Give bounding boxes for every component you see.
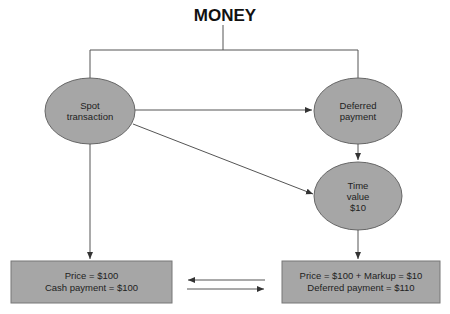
right-box-label: Price = $100 + Markup = $10 Deferred pay… (282, 270, 440, 294)
label-line: Time (314, 180, 402, 191)
label-line: transaction (45, 111, 135, 122)
label-line: Price = $100 (11, 270, 172, 282)
label-line: payment (314, 111, 402, 122)
label-line: Spot (45, 100, 135, 111)
label-line: $10 (314, 202, 402, 213)
time-value-label: Time value $10 (314, 180, 402, 213)
label-line: Deferred payment = $110 (282, 282, 440, 294)
deferred-payment-label: Deferred payment (314, 100, 402, 122)
label-line: Deferred (314, 100, 402, 111)
label-line: Price = $100 + Markup = $10 (282, 270, 440, 282)
left-box-label: Price = $100 Cash payment = $100 (11, 270, 172, 294)
diagram-title: MONEY (0, 6, 450, 26)
arrow-spot-to-time-value (133, 124, 313, 194)
diagram-canvas (0, 0, 450, 314)
label-line: Cash payment = $100 (11, 282, 172, 294)
spot-transaction-label: Spot transaction (45, 100, 135, 122)
label-line: value (314, 191, 402, 202)
